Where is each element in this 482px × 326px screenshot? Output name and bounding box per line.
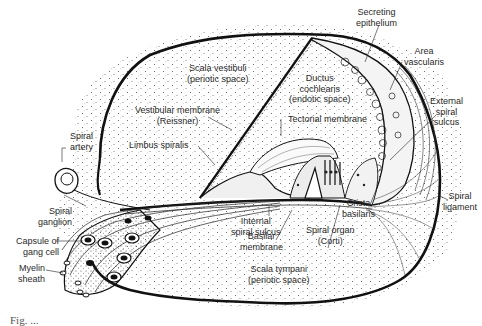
label-spiral-ligament: Spiral ligament [443,191,477,212]
label-secreting-epithelium: Secreting epithelium [356,7,397,28]
label-area-vascularis: Area vascularis [404,46,444,67]
label-vestibular-membrane: Vestibular membrane (Reissner) [135,105,220,126]
label-scala-tympani: Scala tympani (periotic space) [248,264,310,285]
label-external-spiral-sulcus: External spiral sulcus [430,96,463,128]
label-spiral-ganglion: Spiral ganglion [38,206,72,227]
label-spiral-organ: Spiral organ (Corti) [306,225,355,246]
label-tectorial-membrane: Tectorial membrane [288,114,367,125]
label-basilar-membrane: Basilar membrane [240,231,283,252]
label-ductus-cochlearis: Ductus cochlearis (endotic space) [289,73,351,105]
label-limbus-spiralis: Limbus spiralis [129,140,189,151]
figure-caption: Fig. ... [10,314,38,326]
label-myelin-sheath: Myelin sheath [18,263,45,284]
label-crista-basilaris: Crista basilaris [342,198,375,219]
label-spiral-artery: Spiral artery [70,131,93,152]
label-scala-vestibuli: Scala vestibuli (periotic space) [187,63,249,84]
label-capsule-of-gang-cell: Capsule of gang cell [16,236,59,257]
